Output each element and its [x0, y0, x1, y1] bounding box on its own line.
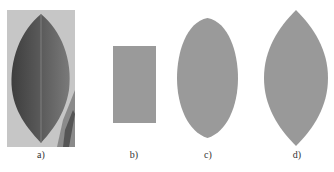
panel-b-rectangle [113, 46, 156, 123]
label-b: b) [119, 149, 149, 160]
label-d: d) [282, 149, 312, 160]
panel-d-pointed-shape [264, 10, 328, 146]
panel-a-leaf-photo [7, 10, 75, 147]
panel-c-ellipse-shape [177, 18, 238, 138]
leaf-photo-image [7, 10, 75, 147]
label-c: c) [193, 149, 223, 160]
label-a: a) [26, 149, 56, 160]
